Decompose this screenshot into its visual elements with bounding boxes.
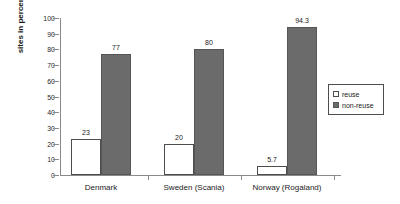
y-axis-tick [53,144,59,145]
bar-value-label: 20 [164,134,194,141]
y-axis-tick-label: 20 [15,141,55,148]
x-axis-tick [148,176,149,180]
y-axis-tick-labels: 1009080706050403020100 [15,18,55,175]
legend-swatch-reuse-icon [333,91,339,97]
y-axis-tick-label: 100 [15,15,55,22]
y-axis-tick [53,49,59,50]
y-axis-tick [53,159,59,160]
legend-item-reuse: reuse [333,89,380,99]
legend-label-non-reuse: non-reuse [342,102,374,109]
bar-value-label: 80 [194,39,224,46]
bar-reuse-norway-rogaland [257,166,287,175]
bar-non-reuse-norway-rogaland [287,27,317,175]
bar-non-reuse-sweden-scania [194,49,224,175]
y-axis-tick-label: 10 [15,156,55,163]
bar-value-label: 77 [101,44,131,51]
bar-reuse-denmark [71,139,101,175]
x-axis-line [60,175,341,176]
y-axis-tick [53,34,59,35]
y-axis-tick-label: 0 [15,172,55,179]
bar-value-label: 94.3 [287,17,317,24]
bar-value-label: 5.7 [257,156,287,163]
y-axis-tick [53,112,59,113]
y-axis-tick-label: 60 [15,78,55,85]
y-axis-tick [53,18,59,19]
x-axis-category-label: Norway (Rogaland) [227,183,347,192]
y-axis-tick [53,128,59,129]
plot-area: 237720805.794.3 [60,18,340,175]
bar-value-label: 23 [71,129,101,136]
bar-non-reuse-denmark [101,54,131,175]
y-axis-tick-label: 40 [15,109,55,116]
bar-reuse-sweden-scania [164,144,194,175]
bar-chart: sites in percent 1009080706050403020100 … [0,0,400,204]
chart-legend: reuse non-reuse [328,84,384,115]
y-axis-tick [53,65,59,66]
legend-item-non-reuse: non-reuse [333,100,380,110]
y-axis-tick-label: 80 [15,46,55,53]
x-axis-tick [241,176,242,180]
y-axis-tick [53,97,59,98]
y-axis-tick [53,175,59,176]
y-axis-tick-label: 70 [15,62,55,69]
y-axis-tick [53,81,59,82]
y-axis-tick-label: 90 [15,31,55,38]
y-axis-tick-label: 30 [15,125,55,132]
y-axis-tick-label: 50 [15,94,55,101]
legend-label-reuse: reuse [342,91,360,98]
legend-swatch-non-reuse-icon [333,102,339,108]
x-axis-tick [334,176,335,180]
